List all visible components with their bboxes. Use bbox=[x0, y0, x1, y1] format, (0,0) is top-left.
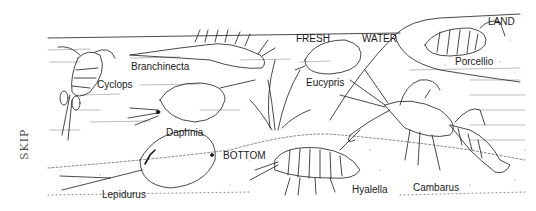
label-cambarus: Cambarus bbox=[413, 183, 459, 193]
label-porcellio: Porcellio bbox=[455, 57, 493, 67]
habitat-label-bottom: BOTTOM bbox=[223, 151, 266, 161]
daphnia-drawing bbox=[128, 80, 255, 125]
water-surface-line bbox=[48, 33, 400, 38]
habitat-label-land: LAND bbox=[488, 17, 515, 27]
label-branchinecta: Branchinecta bbox=[131, 62, 189, 72]
label-daphnia: Daphnia bbox=[166, 128, 203, 138]
margin-handwritten-note: SKIP bbox=[18, 129, 31, 161]
label-hyalella: Hyalella bbox=[352, 185, 388, 195]
label-cyclops: Cyclops bbox=[97, 80, 133, 90]
label-eucypris: Eucypris bbox=[306, 78, 344, 88]
habitat-label-water: WATER bbox=[362, 34, 397, 44]
cambarus-drawing bbox=[340, 70, 510, 173]
cyclops-drawing bbox=[58, 47, 115, 140]
aquatic-plant-drawing bbox=[250, 60, 310, 130]
crustacean-illustration: FRESH WATER LAND BOTTOM Cyclops Branchin… bbox=[0, 0, 536, 211]
label-lepidurus: Lepidurus bbox=[102, 190, 146, 200]
hyalella-drawing bbox=[250, 148, 360, 196]
eucypris-drawing bbox=[295, 40, 361, 74]
habitat-label-fresh: FRESH bbox=[296, 34, 330, 44]
illustration-drawing bbox=[0, 0, 536, 211]
